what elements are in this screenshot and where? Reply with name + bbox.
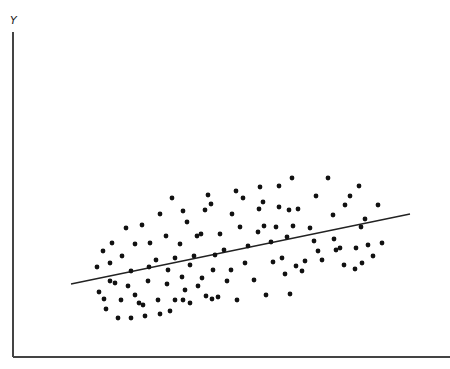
data-point bbox=[332, 237, 337, 242]
data-point bbox=[277, 205, 282, 210]
data-point bbox=[256, 230, 261, 235]
data-point bbox=[300, 269, 305, 274]
data-point bbox=[264, 293, 269, 298]
data-point bbox=[320, 258, 325, 263]
data-point bbox=[196, 284, 201, 289]
data-point bbox=[158, 212, 163, 217]
data-point bbox=[312, 239, 317, 244]
data-point bbox=[133, 242, 138, 247]
data-point bbox=[204, 294, 209, 299]
data-point bbox=[296, 207, 301, 212]
data-point bbox=[234, 189, 239, 194]
data-point bbox=[353, 267, 358, 272]
data-point bbox=[363, 217, 368, 222]
data-point bbox=[316, 249, 321, 254]
data-point bbox=[113, 281, 118, 286]
data-point bbox=[257, 207, 262, 212]
data-point bbox=[108, 261, 113, 266]
data-point bbox=[285, 235, 290, 240]
data-point bbox=[252, 278, 257, 283]
data-point bbox=[210, 297, 215, 302]
data-point bbox=[101, 249, 106, 254]
data-point bbox=[165, 282, 170, 287]
data-point bbox=[140, 223, 145, 228]
data-point bbox=[133, 293, 138, 298]
data-point bbox=[119, 298, 124, 303]
data-point bbox=[185, 220, 190, 225]
data-point bbox=[164, 234, 169, 239]
data-point bbox=[359, 225, 364, 230]
data-point bbox=[158, 312, 163, 317]
data-point bbox=[120, 254, 125, 259]
data-point bbox=[129, 269, 134, 274]
data-point bbox=[173, 298, 178, 303]
data-point bbox=[166, 268, 171, 273]
data-point bbox=[200, 276, 205, 281]
data-point bbox=[287, 208, 292, 213]
data-point bbox=[283, 272, 288, 277]
data-point bbox=[116, 316, 121, 321]
data-point bbox=[303, 259, 308, 264]
data-point bbox=[222, 248, 227, 253]
data-points bbox=[95, 176, 385, 321]
scatter-plot bbox=[0, 0, 450, 369]
data-point bbox=[366, 243, 371, 248]
data-point bbox=[331, 213, 336, 218]
data-point bbox=[343, 203, 348, 208]
data-point bbox=[290, 176, 295, 181]
data-point bbox=[209, 202, 214, 207]
data-point bbox=[243, 261, 248, 266]
data-point bbox=[216, 295, 221, 300]
data-point bbox=[211, 268, 216, 273]
data-point bbox=[218, 232, 223, 237]
data-point bbox=[110, 241, 115, 246]
data-point bbox=[124, 226, 129, 231]
data-point bbox=[262, 224, 267, 229]
data-point bbox=[170, 196, 175, 201]
data-point bbox=[294, 264, 299, 269]
data-point bbox=[213, 253, 218, 258]
data-point bbox=[188, 301, 193, 306]
data-point bbox=[168, 309, 173, 314]
data-point bbox=[326, 176, 331, 181]
data-point bbox=[108, 279, 113, 284]
data-point bbox=[235, 298, 240, 303]
data-point bbox=[147, 265, 152, 270]
data-point bbox=[348, 194, 353, 199]
data-point bbox=[308, 226, 313, 231]
data-point bbox=[173, 256, 178, 261]
data-point bbox=[291, 224, 296, 229]
data-point bbox=[129, 316, 134, 321]
data-point bbox=[274, 225, 279, 230]
data-point bbox=[199, 232, 204, 237]
data-point bbox=[102, 297, 107, 302]
data-point bbox=[126, 284, 131, 289]
data-point bbox=[280, 256, 285, 261]
data-point bbox=[181, 298, 186, 303]
data-point bbox=[261, 200, 266, 205]
data-point bbox=[360, 261, 365, 266]
data-point bbox=[314, 194, 319, 199]
data-point bbox=[238, 225, 243, 230]
data-point bbox=[241, 196, 246, 201]
data-point bbox=[271, 260, 276, 265]
regression-line bbox=[71, 214, 410, 284]
data-point bbox=[225, 279, 230, 284]
data-point bbox=[342, 263, 347, 268]
data-point bbox=[371, 254, 376, 259]
data-point bbox=[146, 279, 151, 284]
data-point bbox=[180, 275, 185, 280]
data-point bbox=[154, 258, 159, 263]
data-point bbox=[143, 314, 148, 319]
data-point bbox=[288, 292, 293, 297]
data-point bbox=[104, 307, 109, 312]
data-point bbox=[357, 184, 362, 189]
data-point bbox=[203, 208, 208, 213]
data-point bbox=[95, 265, 100, 270]
data-point bbox=[230, 212, 235, 217]
data-point bbox=[376, 203, 381, 208]
data-point bbox=[183, 288, 188, 293]
data-point bbox=[354, 246, 359, 251]
data-point bbox=[188, 263, 193, 268]
data-point bbox=[269, 240, 274, 245]
